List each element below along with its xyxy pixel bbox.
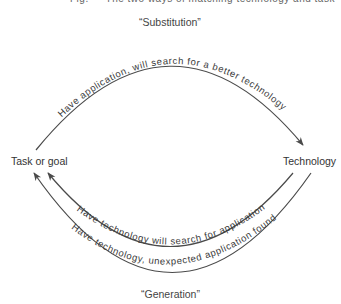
arcs-layer: Have application, will search for a bett… <box>0 0 341 304</box>
top-arc-label: Have application, will search for a bett… <box>55 55 289 119</box>
substitution-arc-arrow <box>36 66 303 150</box>
substitution-generation-diagram: Fig. — The two ways of matching technolo… <box>0 0 341 304</box>
